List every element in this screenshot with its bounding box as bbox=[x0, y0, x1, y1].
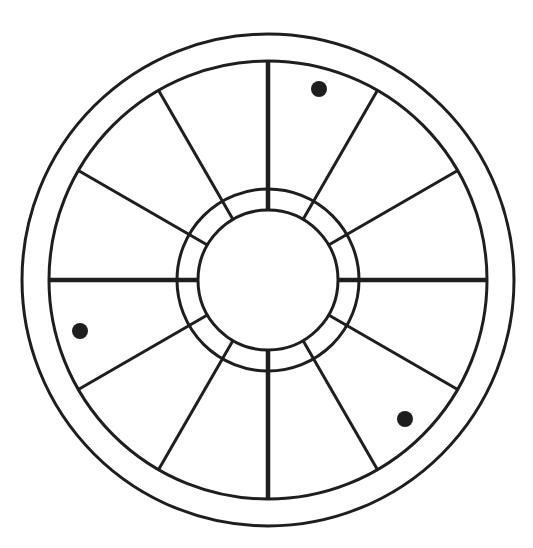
spokes-group bbox=[49, 61, 487, 499]
house-spoke-60 bbox=[303, 90, 378, 219]
house-spoke-330 bbox=[329, 315, 458, 390]
marker-top-right-dot-icon bbox=[311, 81, 327, 97]
house-spoke-150 bbox=[78, 171, 207, 246]
house-wheel-diagram bbox=[0, 0, 533, 548]
middle-ring bbox=[177, 189, 359, 371]
marker-left-dot-icon bbox=[72, 323, 88, 339]
house-spoke-240 bbox=[159, 341, 234, 470]
house-spoke-210 bbox=[78, 315, 207, 390]
marker-bottom-right-dot-icon bbox=[397, 411, 413, 427]
inner-ring bbox=[198, 210, 338, 350]
house-spoke-300 bbox=[303, 341, 378, 470]
house-spoke-30 bbox=[329, 171, 458, 246]
markers-group bbox=[72, 81, 413, 427]
house-spoke-120 bbox=[159, 90, 234, 219]
